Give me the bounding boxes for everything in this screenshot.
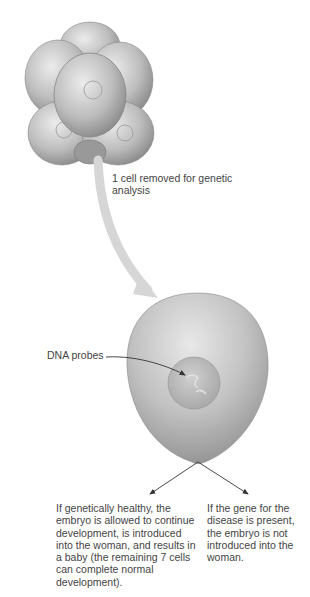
healthy-outcome-arrow (150, 462, 198, 494)
removed-single-cell (127, 293, 268, 464)
dna-probes-label: DNA probes (47, 349, 117, 361)
healthy-outcome-text: If genetically healthy, the embryo is al… (56, 502, 196, 588)
cell-removed-label: 1 cell removed for genetic analysis (112, 172, 262, 197)
disease-outcome-arrow (198, 462, 248, 494)
disease-outcome-text: If the gene for the disease is present, … (207, 502, 302, 563)
nucleus (168, 357, 220, 409)
embryo-8-cell-cluster (25, 22, 154, 165)
